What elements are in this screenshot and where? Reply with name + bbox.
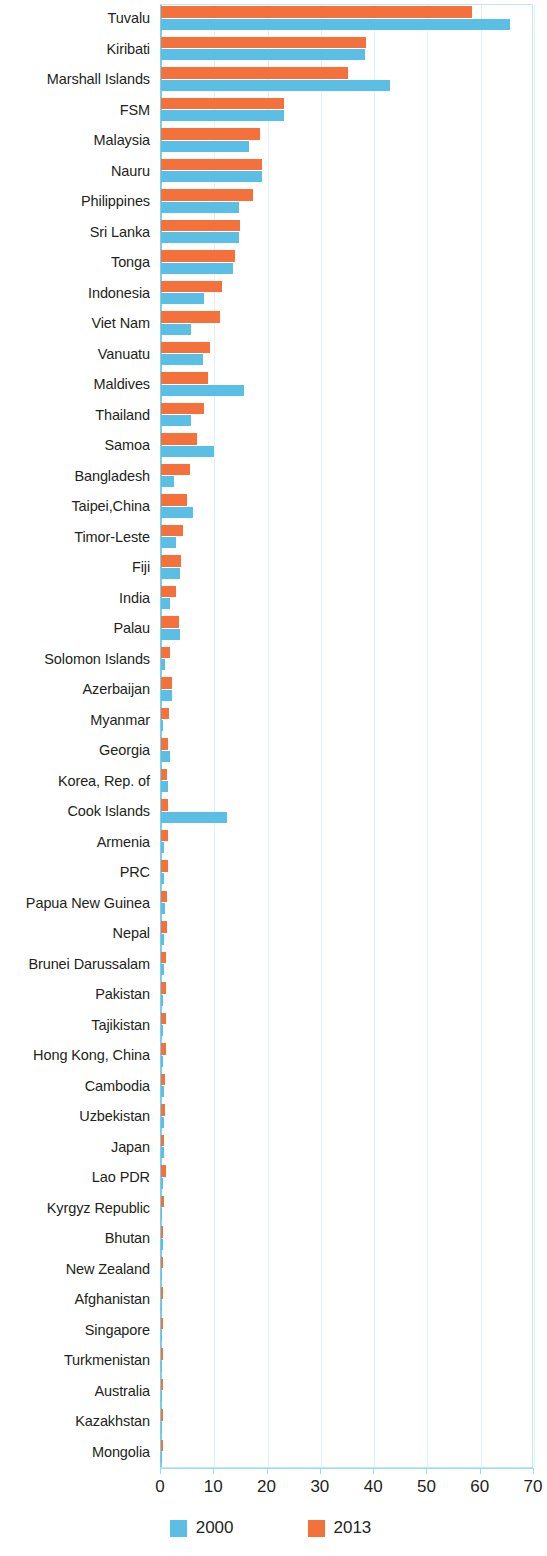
bar-2000	[161, 629, 180, 640]
x-tick	[533, 1468, 534, 1474]
bar-2000	[161, 995, 163, 1006]
bar-2000	[161, 232, 239, 243]
category-label: Brunei Darussalam	[28, 950, 150, 979]
category-label: Bhutan	[105, 1224, 150, 1253]
bar-2013	[161, 494, 187, 505]
chart-row: Mongolia	[0, 1438, 541, 1467]
bar-2013	[161, 738, 168, 749]
chart-row: Maldives	[0, 370, 541, 399]
category-label: Sri Lanka	[90, 218, 150, 247]
chart-row: Pakistan	[0, 980, 541, 1009]
chart-row: Azerbaijan	[0, 675, 541, 704]
bar-2013	[161, 982, 166, 993]
bar-2000	[161, 202, 239, 213]
bar-2013	[161, 1409, 163, 1420]
bar-2013	[161, 1226, 163, 1237]
category-label: Taipei,China	[71, 492, 150, 521]
category-label: Georgia	[99, 736, 150, 765]
legend-swatch-icon	[308, 1520, 325, 1537]
chart-row: Myanmar	[0, 706, 541, 735]
category-label: Australia	[94, 1377, 150, 1406]
x-tick	[267, 1468, 268, 1474]
bar-2000	[161, 1056, 163, 1067]
chart-row: Cook Islands	[0, 797, 541, 826]
bar-2013	[161, 342, 210, 353]
chart-row: Armenia	[0, 828, 541, 857]
bar-2000	[161, 903, 165, 914]
legend-item-2000[interactable]: 2000	[170, 1518, 234, 1538]
chart-row: Uzbekistan	[0, 1102, 541, 1131]
category-label: Tonga	[111, 248, 150, 277]
category-label: Indonesia	[88, 279, 150, 308]
chart-row: Bhutan	[0, 1224, 541, 1253]
chart-row: Singapore	[0, 1316, 541, 1345]
bar-2000	[161, 263, 233, 274]
chart-row: Vanuatu	[0, 340, 541, 369]
bar-2013	[161, 464, 190, 475]
bar-2000	[161, 415, 191, 426]
x-tick-label: 0	[130, 1477, 190, 1497]
x-tick-label: 40	[343, 1477, 403, 1497]
chart-row: Georgia	[0, 736, 541, 765]
bar-2013	[161, 555, 181, 566]
chart-row: Brunei Darussalam	[0, 950, 541, 979]
category-label: Japan	[111, 1133, 150, 1162]
x-tick	[426, 1468, 427, 1474]
bar-2013	[161, 677, 172, 688]
chart-row: Kazakhstan	[0, 1407, 541, 1436]
bar-2013	[161, 67, 348, 78]
category-label: New Zealand	[66, 1255, 150, 1284]
bar-2013	[161, 189, 253, 200]
bar-2000	[161, 1208, 162, 1219]
x-tick-label: 20	[237, 1477, 297, 1497]
bar-2013	[161, 311, 220, 322]
x-tick	[160, 1468, 161, 1474]
chart-legend: 20002013	[0, 1518, 541, 1538]
bar-2000	[161, 537, 176, 548]
chart-row: Philippines	[0, 187, 541, 216]
chart-row: Sri Lanka	[0, 218, 541, 247]
bar-2000	[161, 1025, 163, 1036]
x-tick-label: 30	[290, 1477, 350, 1497]
bar-2013	[161, 616, 179, 627]
bar-2000	[161, 781, 168, 792]
bar-2000	[161, 1300, 162, 1311]
category-label: Malaysia	[94, 126, 150, 155]
x-tick-label: 50	[396, 1477, 456, 1497]
bar-2000	[161, 49, 365, 60]
bar-2000	[161, 659, 165, 670]
bar-2013	[161, 37, 366, 48]
category-label: Lao PDR	[92, 1163, 150, 1192]
bar-2000	[161, 690, 172, 701]
bar-2000	[161, 1422, 162, 1433]
legend-item-2013[interactable]: 2013	[308, 1518, 372, 1538]
bar-2013	[161, 98, 284, 109]
bar-2000	[161, 171, 262, 182]
bar-2000	[161, 873, 164, 884]
bar-2013	[161, 1196, 164, 1207]
bar-2013	[161, 586, 176, 597]
category-label: Vanuatu	[98, 340, 150, 369]
category-label: Palau	[113, 614, 150, 643]
bar-2000	[161, 507, 193, 518]
bar-2013	[161, 1013, 166, 1024]
chart-row: Bangladesh	[0, 462, 541, 491]
bar-2013	[161, 1348, 163, 1359]
bar-2013	[161, 1074, 165, 1085]
bar-2000	[161, 1330, 162, 1341]
category-label: Papua New Guinea	[26, 889, 150, 918]
bar-2013	[161, 799, 168, 810]
category-label: Fiji	[132, 553, 150, 582]
category-label: Turkmenistan	[64, 1346, 150, 1375]
bar-2013	[161, 1043, 166, 1054]
x-tick	[320, 1468, 321, 1474]
chart-row: Marshall Islands	[0, 65, 541, 94]
category-label: Mongolia	[92, 1438, 150, 1467]
chart-row: Tonga	[0, 248, 541, 277]
bar-2000	[161, 141, 249, 152]
bar-2013	[161, 159, 262, 170]
category-label: Bangladesh	[74, 462, 150, 491]
bar-2013	[161, 647, 170, 658]
chart-row: New Zealand	[0, 1255, 541, 1284]
legend-swatch-icon	[170, 1520, 187, 1537]
